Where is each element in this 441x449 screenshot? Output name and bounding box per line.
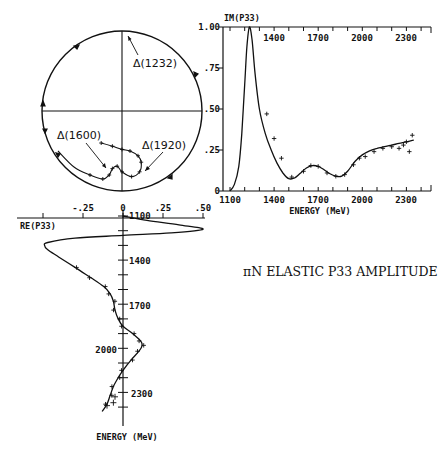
- figure-canvas: Δ(1232) Δ(1600) Δ(1920) IM(P33) 1.00 .75…: [0, 0, 441, 449]
- argand-plot: Δ(1232) Δ(1600) Δ(1920): [41, 31, 202, 191]
- im-top-tick-1400: 1400: [263, 33, 285, 43]
- im-axis-title: IM(P33): [224, 13, 260, 23]
- im-fit-curve: [230, 27, 414, 191]
- re-e-tick-1700: 1700: [129, 301, 151, 311]
- im-x-axis-title: ENERGY (MeV): [289, 206, 350, 216]
- im-y-tick-075: .75: [204, 63, 220, 73]
- re-e-tick-2000: 2000: [95, 345, 117, 355]
- re-e-tick-1400: 1400: [129, 256, 151, 266]
- im-data-points: [265, 112, 415, 180]
- label-delta-1232: Δ(1232): [133, 57, 177, 70]
- label-delta-1920: Δ(1920): [142, 139, 186, 152]
- arrow-delta-1600: [86, 143, 106, 168]
- im-x-tick-1100: 1100: [219, 195, 241, 205]
- im-top-tick-2000: 2000: [351, 33, 373, 43]
- re-plot: -.25 0 .25 .50 RE(P33) 1100 1400 1700 20…: [17, 203, 211, 442]
- re-axis-title: RE(P33): [20, 221, 56, 231]
- re-x-tick-m025: -.25: [72, 203, 94, 213]
- re-x-tick-0: 0: [120, 203, 125, 213]
- re-energy-axis-title: ENERGY (MeV): [96, 432, 157, 442]
- argand-trajectory: [58, 143, 141, 179]
- figure-title: πN ELASTIC P33 AMPLITUDE: [243, 264, 438, 279]
- im-x-tick-1400: 1400: [263, 195, 285, 205]
- im-top-tick-1700: 1700: [307, 33, 329, 43]
- im-ticks: [219, 27, 431, 191]
- re-data-points: [74, 265, 146, 408]
- label-delta-1600: Δ(1600): [57, 129, 101, 142]
- im-x-tick-1700: 1700: [307, 195, 329, 205]
- re-x-tick-025: .25: [155, 203, 171, 213]
- im-y-tick-025: .25: [204, 145, 220, 155]
- im-y-tick-100: 1.00: [198, 22, 220, 32]
- im-x-tick-2300: 2300: [395, 195, 417, 205]
- re-x-tick-050: .50: [195, 203, 211, 213]
- im-plot: IM(P33) 1.00 .75 .50 .25 0 1100 1400 170…: [198, 13, 431, 216]
- re-e-tick-2300: 2300: [131, 389, 153, 399]
- im-top-tick-2300: 2300: [395, 33, 417, 43]
- im-x-tick-2000: 2000: [351, 195, 373, 205]
- im-y-tick-050: .50: [204, 104, 220, 114]
